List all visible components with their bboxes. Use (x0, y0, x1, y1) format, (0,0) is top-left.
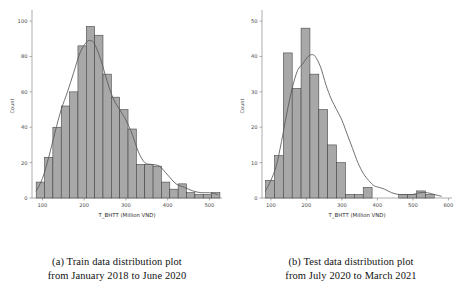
test-plot-area: 01020304050100200300400500600T_BHTT (Mil… (234, 0, 468, 232)
histogram-bar (319, 110, 328, 198)
x-tick-label: 200 (301, 202, 311, 208)
histogram-bar (337, 163, 346, 198)
histogram-bar (70, 92, 78, 198)
histogram-bar (95, 35, 103, 198)
y-tick-label: 20 (251, 124, 258, 130)
histogram-bar (310, 74, 319, 198)
histogram-bar (86, 26, 94, 198)
test-histogram-chart: 01020304050100200300400500600T_BHTT (Mil… (234, 0, 468, 232)
histogram-bar (345, 194, 354, 198)
histogram-bars (36, 26, 220, 198)
histogram-bar (399, 194, 408, 198)
train-plot-area: 020406080100100200300400500T_BHTT (Milli… (0, 0, 234, 232)
histogram-bar (170, 189, 178, 198)
y-axis-title: Count (239, 99, 245, 114)
histogram-bar (195, 194, 203, 198)
y-axis-title: Count (9, 99, 15, 114)
x-tick-label: 100 (37, 202, 47, 208)
caption-train-line1: (a) Train data distribution plot (0, 255, 234, 269)
histogram-bar (61, 106, 69, 198)
histogram-bar (78, 46, 86, 198)
histogram-bar (103, 74, 111, 198)
x-tick-label: 200 (79, 202, 89, 208)
x-tick-label: 500 (205, 202, 215, 208)
caption-train-line2: from January 2018 to June 2020 (0, 269, 234, 283)
histogram-bar (120, 110, 128, 198)
histogram-bar (161, 182, 169, 198)
figure-container: 020406080100100200300400500T_BHTT (Milli… (0, 0, 468, 288)
histogram-bar (45, 157, 53, 198)
x-tick-label: 300 (337, 202, 347, 208)
histogram-bar (416, 191, 425, 198)
histogram-bar (53, 127, 61, 198)
caption-test: (b) Test data distribution plot from Jul… (234, 255, 468, 282)
y-tick-label: 40 (251, 53, 258, 59)
histogram-bar (292, 88, 301, 198)
panel-train: 020406080100100200300400500T_BHTT (Milli… (0, 0, 234, 288)
y-tick-label: 20 (21, 160, 28, 166)
x-tick-label: 400 (372, 202, 382, 208)
histogram-bar (136, 164, 144, 198)
histogram-bar (203, 194, 211, 198)
train-histogram-chart: 020406080100100200300400500T_BHTT (Milli… (0, 0, 234, 232)
histogram-bar (145, 164, 153, 198)
y-tick-label: 80 (21, 53, 28, 59)
x-tick-label: 400 (163, 202, 173, 208)
y-tick-label: 50 (251, 18, 258, 24)
x-tick-label: 100 (266, 202, 276, 208)
histogram-bar (363, 187, 372, 198)
histogram-bar (153, 166, 161, 198)
histogram-bar (274, 156, 283, 198)
histogram-bar (328, 145, 337, 198)
x-axis-title: T_BHTT (Million VND) (97, 212, 155, 219)
histogram-bar (408, 194, 417, 198)
y-tick-label: 30 (251, 89, 258, 95)
caption-test-line1: (b) Test data distribution plot (234, 255, 468, 269)
y-tick-label: 60 (21, 89, 28, 95)
histogram-bar (36, 182, 44, 198)
histogram-bars (266, 28, 435, 198)
x-axis-title: T_BHTT (Million VND) (327, 212, 385, 219)
y-tick-label: 40 (21, 124, 28, 130)
histogram-bar (354, 194, 363, 198)
x-tick-label: 300 (121, 202, 131, 208)
histogram-bar (128, 129, 136, 198)
histogram-bar (301, 28, 310, 198)
y-tick-label: 0 (24, 195, 27, 201)
y-tick-label: 100 (18, 18, 28, 24)
histogram-bar (111, 97, 119, 198)
y-tick-label: 10 (251, 160, 258, 166)
caption-test-line2: from July 2020 to March 2021 (234, 269, 468, 283)
histogram-bar (425, 194, 434, 198)
x-tick-label: 500 (408, 202, 418, 208)
histogram-bar (187, 193, 195, 198)
y-tick-label: 0 (254, 195, 257, 201)
caption-train: (a) Train data distribution plot from Ja… (0, 255, 234, 282)
x-tick-label: 600 (443, 202, 453, 208)
panel-test: 01020304050100200300400500600T_BHTT (Mil… (234, 0, 468, 288)
